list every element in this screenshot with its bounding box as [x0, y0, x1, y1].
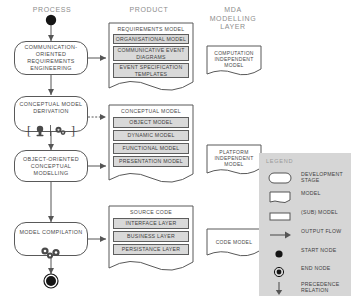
legend-item-precedence-relation: PRECEDENCE RELATION: [267, 281, 351, 296]
product-conceptual-model[interactable]: CONCEPTUAL MODEL OBJECT MODEL DYNAMIC MO…: [108, 104, 194, 187]
rectangle-icon: [267, 209, 297, 223]
stage-label: COMMUNICATION- ORIENTED REQUIREMENTS ENG…: [24, 44, 77, 72]
legend-item-development-stage: DEVELOPMENT STAGE: [267, 171, 351, 186]
mda-model-label: CODE MODEL: [206, 239, 262, 245]
stage-communication-oriented-requirements-engineering[interactable]: COMMUNICATION- ORIENTED REQUIREMENTS ENG…: [14, 41, 88, 75]
circled-dot-icon: [267, 265, 297, 279]
legend-item-sub-model: (SUB) MODEL: [267, 209, 351, 224]
document-shape-icon: [267, 190, 297, 204]
rounded-rectangle-icon: [267, 171, 297, 185]
process-product-mda-diagram: PROCESS PRODUCT MDA MODELLING LAYER COMM…: [0, 0, 355, 305]
column-header-mda: MDA MODELLING LAYER: [200, 6, 266, 32]
arrow-right-icon: [267, 228, 297, 242]
legend-label: OUTPUT FLOW: [301, 228, 341, 234]
mda-platform-independent-model[interactable]: PLATFORM INDEPENDENT MODEL: [206, 144, 262, 176]
svg-text:]: ]: [71, 124, 75, 138]
svg-text:[: [: [27, 124, 31, 138]
product-title: SOURCE CODE: [108, 209, 194, 216]
legend-label: END NODE: [301, 265, 330, 271]
submodel-communicative-event-diagrams[interactable]: COMMUNICATIVE EVENT DIAGRAMS: [113, 46, 189, 61]
mda-computation-independent-model[interactable]: COMPUTATION INDEPENDENT MODEL: [206, 45, 262, 77]
mda-code-model[interactable]: CODE MODEL: [206, 228, 262, 258]
mda-model-label: PLATFORM INDEPENDENT MODEL: [206, 149, 262, 168]
legend-item-start-node: START NODE: [267, 247, 351, 262]
legend-item-output-flow: OUTPUT FLOW: [267, 228, 351, 243]
submodel-object-model[interactable]: OBJECT MODEL: [113, 117, 189, 128]
submodel-dynamic-model[interactable]: DYNAMIC MODEL: [113, 130, 189, 141]
product-source-code[interactable]: SOURCE CODE INTERFACE LAYER BUSINESS LAY…: [108, 205, 194, 275]
stage-label: OBJECT-ORIENTED CONCEPTUAL MODELLING: [23, 156, 79, 177]
submodel-event-specification-templates[interactable]: EVENT SPECIFICATION TEMPLATES: [113, 63, 189, 78]
gears-icon: [36, 238, 66, 263]
legend-item-end-node: END NODE: [267, 265, 351, 280]
manual-or-automated-icon: [ ]: [25, 116, 77, 140]
legend-label: (SUB) MODEL: [301, 209, 338, 215]
legend-panel: LEGEND DEVELOPMENT STAGE MODEL (SUB) MOD…: [259, 153, 351, 296]
product-requirements-model[interactable]: REQUIREMENTS MODEL ORGANISATIONAL MODEL …: [108, 22, 194, 94]
legend-title: LEGEND: [266, 158, 293, 164]
stage-label: CONCEPTUAL MODEL DERIVATION: [20, 101, 83, 115]
submodel-functional-model[interactable]: FUNCTIONAL MODEL: [113, 143, 189, 154]
submodel-presentation-model[interactable]: PRESENTATION MODEL: [113, 156, 189, 167]
legend-label: DEVELOPMENT STAGE: [301, 171, 343, 184]
product-title: REQUIREMENTS MODEL: [108, 26, 194, 33]
submodel-business-layer[interactable]: BUSINESS LAYER: [113, 231, 189, 242]
stage-model-compilation[interactable]: MODEL COMPILATION: [14, 222, 88, 256]
mda-model-label: COMPUTATION INDEPENDENT MODEL: [206, 50, 262, 69]
legend-label: PRECEDENCE RELATION: [301, 281, 340, 294]
legend-item-model: MODEL: [267, 190, 351, 205]
product-title: CONCEPTUAL MODEL: [108, 108, 194, 115]
start-node: [46, 15, 56, 25]
stage-label: MODEL COMPILATION: [19, 229, 82, 236]
column-header-process: PROCESS: [12, 6, 92, 15]
column-header-product: PRODUCT: [108, 6, 190, 15]
submodel-organisational-model[interactable]: ORGANISATIONAL MODEL: [113, 34, 189, 44]
legend-label: START NODE: [301, 247, 336, 253]
arrow-down-icon: [267, 281, 297, 295]
end-node: [46, 276, 56, 286]
submodel-interface-layer[interactable]: INTERFACE LAYER: [113, 218, 189, 229]
stage-object-oriented-conceptual-modelling[interactable]: OBJECT-ORIENTED CONCEPTUAL MODELLING: [14, 150, 88, 182]
filled-circle-icon: [267, 247, 297, 261]
stage-conceptual-model-derivation[interactable]: CONCEPTUAL MODEL DERIVATION [ ]: [14, 96, 88, 132]
submodel-persistance-layer[interactable]: PERSISTANCE LAYER: [113, 244, 189, 255]
legend-label: MODEL: [301, 190, 321, 196]
